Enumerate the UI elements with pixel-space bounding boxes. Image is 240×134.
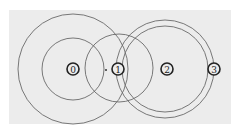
node-3: 3 (208, 63, 220, 75)
node-0: 0 (67, 63, 79, 75)
node-label: 3 (211, 65, 217, 75)
node-label: 0 (70, 65, 76, 75)
node-2: 2 (161, 63, 173, 75)
marker-dot (105, 69, 107, 71)
node-label: 2 (164, 65, 170, 75)
node-1: 1 (112, 63, 124, 75)
node-label: 1 (115, 65, 121, 75)
circle-diagram: 0123 (0, 0, 240, 134)
